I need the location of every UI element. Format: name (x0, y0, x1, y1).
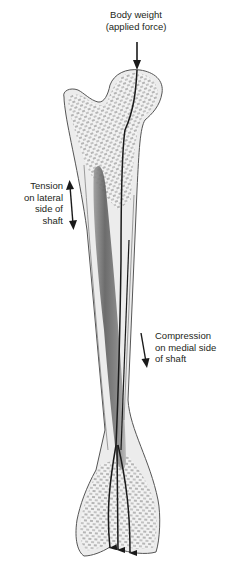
body-weight-line-2: (applied force) (86, 21, 186, 33)
compression-arrow (141, 333, 150, 368)
tension-arrow (66, 180, 77, 230)
femur-bone (64, 70, 163, 556)
tension-line-3: side of (3, 203, 63, 215)
body-weight-line-1: Body weight (86, 9, 186, 21)
compression-line-3: of shaft (155, 353, 235, 365)
tension-line-2: on lateral (3, 192, 63, 204)
femur-diagram (0, 0, 237, 572)
applied-force-arrow (133, 42, 141, 70)
tension-label: Tension on lateral side of shaft (3, 180, 63, 226)
tension-line-4: shaft (3, 215, 63, 227)
body-weight-label: Body weight (applied force) (86, 9, 186, 32)
compression-label: Compression on medial side of shaft (155, 330, 235, 365)
compression-line-2: on medial side (155, 342, 235, 354)
compression-line-1: Compression (155, 330, 235, 342)
tension-line-1: Tension (3, 180, 63, 192)
